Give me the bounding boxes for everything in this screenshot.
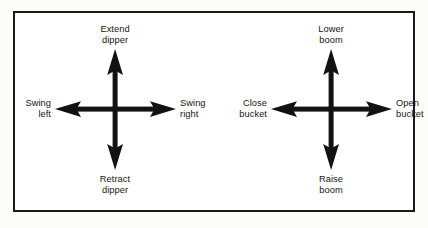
label-raise-boom: Raise boom bbox=[319, 174, 343, 195]
label-swing-left: Swing left bbox=[25, 98, 51, 119]
label-open-bucket: Open bucket bbox=[396, 98, 424, 119]
label-line-2: bucket bbox=[239, 109, 267, 120]
label-line-2: dipper bbox=[100, 185, 130, 196]
label-line-1: Extend bbox=[100, 24, 129, 35]
label-line-1: Open bbox=[396, 98, 424, 109]
label-line-2: bucket bbox=[396, 109, 424, 120]
label-line-2: boom bbox=[318, 35, 344, 46]
label-lower-boom: Lower boom bbox=[318, 24, 344, 45]
right-control-cross: Lower boom Raise boom Close bucket Open … bbox=[216, 13, 417, 214]
label-line-2: right bbox=[180, 109, 206, 120]
label-line-1: Lower bbox=[318, 24, 344, 35]
diagram-page: Extend dipper Retract dipper Swing left … bbox=[0, 0, 428, 228]
label-line-1: Close bbox=[239, 98, 267, 109]
label-retract-dipper: Retract dipper bbox=[100, 174, 130, 195]
label-swing-right: Swing right bbox=[180, 98, 206, 119]
diagram-frame: Extend dipper Retract dipper Swing left … bbox=[13, 11, 415, 212]
label-line-1: Retract bbox=[100, 174, 130, 185]
label-line-2: left bbox=[25, 109, 51, 120]
label-line-2: boom bbox=[319, 185, 343, 196]
label-line-1: Swing bbox=[25, 98, 51, 109]
label-line-1: Raise bbox=[319, 174, 343, 185]
label-close-bucket: Close bucket bbox=[239, 98, 267, 119]
left-control-cross: Extend dipper Retract dipper Swing left … bbox=[15, 13, 216, 214]
label-line-2: dipper bbox=[100, 35, 129, 46]
label-line-1: Swing bbox=[180, 98, 206, 109]
label-extend-dipper: Extend dipper bbox=[100, 24, 129, 45]
